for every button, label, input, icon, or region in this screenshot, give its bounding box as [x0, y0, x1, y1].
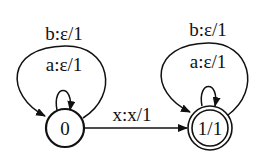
state-0-label: 0 [60, 118, 70, 139]
edge-s0-self-b-label: b:ε/1 [45, 23, 83, 44]
edge-s1-self-b-label: b:ε/1 [189, 19, 227, 40]
edge-s1-self-a-label: a:ε/1 [190, 51, 226, 72]
state-1-label: 1/1 [198, 118, 222, 139]
state-1-final: 1/1 [188, 106, 232, 150]
transducer-diagram: 0 1/1 a:ε/1 b:ε/1 x:x/1 a:ε/1 b:ε/1 [0, 0, 260, 166]
edge-s0-self-a-label: a:ε/1 [46, 54, 82, 75]
edge-s0-self-a [56, 91, 70, 111]
edge-s1-self-a [201, 87, 215, 107]
edge-s0-s1-label: x:x/1 [112, 104, 151, 125]
state-0: 0 [46, 109, 84, 147]
